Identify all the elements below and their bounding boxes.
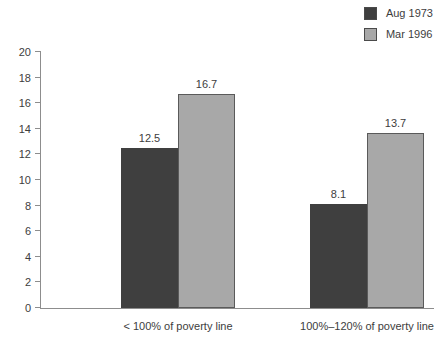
y-tick-6: 6 [35, 230, 41, 231]
y-tick-2: 2 [35, 281, 41, 282]
legend-item-aug-1973: Aug 1973 [364, 6, 433, 20]
y-axis-line [40, 52, 41, 309]
y-tick-label-12: 12 [19, 148, 31, 161]
bar-rect [121, 148, 178, 308]
chart-legend: Aug 1973 Mar 1996 [364, 6, 433, 41]
legend-item-mar-1996: Mar 1996 [364, 27, 433, 41]
y-tick-8: 8 [35, 205, 41, 206]
y-tick-label-20: 20 [19, 46, 31, 59]
bar-pair-1: 8.113.7 [310, 52, 424, 308]
legend-label-mar-1996: Mar 1996 [386, 28, 432, 41]
bar-aug-1973-group-1: 8.1 [310, 52, 367, 308]
bar-aug-1973-group-0: 12.5 [121, 52, 178, 308]
y-tick-12: 12 [35, 153, 41, 154]
bar-chart: Aug 1973 Mar 1996 02468101214161820 12.5… [0, 0, 441, 353]
legend-swatch-aug-1973 [364, 7, 377, 20]
y-tick-14: 14 [35, 128, 41, 129]
bar-rect [310, 204, 367, 308]
y-tick-label-6: 6 [25, 225, 31, 238]
y-tick-16: 16 [35, 102, 41, 103]
y-tick-label-16: 16 [19, 97, 31, 110]
bar-value-label: 12.5 [139, 132, 160, 145]
plot-area: 02468101214161820 12.516.7< 100% of pove… [41, 52, 434, 308]
bar-rect [178, 94, 235, 308]
y-tick-label-8: 8 [25, 200, 31, 213]
bar-value-label: 13.7 [385, 117, 406, 130]
y-tick-label-14: 14 [19, 123, 31, 136]
y-tick-label-0: 0 [25, 302, 31, 315]
x-axis-category-label-1: 100%–120% of poverty line [300, 320, 434, 333]
y-tick-label-10: 10 [19, 174, 31, 187]
bar-group-0: 12.516.7< 100% of poverty line [121, 52, 235, 308]
x-axis-category-label-0: < 100% of poverty line [123, 320, 232, 333]
bar-value-label: 16.7 [196, 78, 217, 91]
bar-rect [367, 133, 424, 308]
x-axis-line [40, 308, 434, 309]
y-tick-20: 20 [35, 51, 41, 52]
y-tick-label-2: 2 [25, 276, 31, 289]
bar-mar-1996-group-0: 16.7 [178, 52, 235, 308]
y-tick-10: 10 [35, 179, 41, 180]
bar-mar-1996-group-1: 13.7 [367, 52, 424, 308]
bar-pair-0: 12.516.7 [121, 52, 235, 308]
bar-value-label: 8.1 [331, 188, 346, 201]
y-tick-label-18: 18 [19, 72, 31, 85]
y-tick-0: 0 [35, 307, 41, 308]
y-tick-4: 4 [35, 256, 41, 257]
y-tick-label-4: 4 [25, 251, 31, 264]
legend-swatch-mar-1996 [364, 28, 377, 41]
bar-group-1: 8.113.7100%–120% of poverty line [310, 52, 424, 308]
legend-label-aug-1973: Aug 1973 [386, 7, 433, 20]
y-tick-18: 18 [35, 77, 41, 78]
